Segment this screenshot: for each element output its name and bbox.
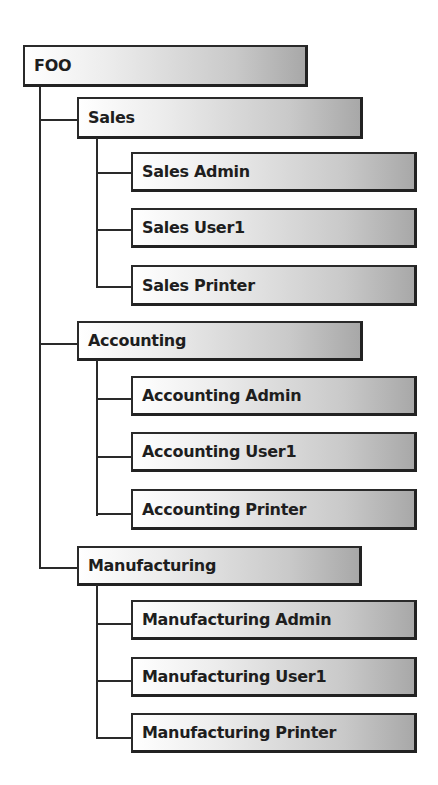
leaf-node-label: Manufacturing User1 bbox=[142, 667, 326, 686]
group-node-label: Manufacturing bbox=[88, 556, 216, 575]
connector-sales-admin bbox=[96, 172, 132, 174]
group-node-label: Accounting bbox=[88, 331, 186, 350]
connector-manufacturing-admin bbox=[96, 623, 132, 625]
leaf-node-accounting-user1: Accounting User1 bbox=[131, 432, 417, 472]
leaf-node-sales-printer: Sales Printer bbox=[131, 265, 417, 306]
connector-sales-printer bbox=[96, 286, 132, 288]
connector-accounting-user1 bbox=[96, 456, 132, 458]
leaf-node-sales-admin: Sales Admin bbox=[131, 152, 417, 192]
accounting-branch-line bbox=[96, 360, 98, 516]
leaf-node-label: Accounting Admin bbox=[142, 386, 301, 405]
leaf-node-label: Accounting Printer bbox=[142, 500, 306, 519]
group-node-accounting: Accounting bbox=[77, 321, 363, 361]
manufacturing-branch-line bbox=[96, 585, 98, 739]
connector-manufacturing-user1 bbox=[96, 680, 132, 682]
connector-accounting-admin bbox=[96, 398, 132, 400]
leaf-node-manufacturing-admin: Manufacturing Admin bbox=[131, 600, 417, 640]
leaf-node-accounting-admin: Accounting Admin bbox=[131, 376, 417, 416]
leaf-node-manufacturing-user1: Manufacturing User1 bbox=[131, 657, 417, 697]
connector-accounting bbox=[39, 343, 78, 345]
root-trunk-line bbox=[39, 86, 41, 568]
root-node: FOO bbox=[23, 45, 308, 87]
root-node-label: FOO bbox=[34, 56, 71, 75]
connector-accounting-printer bbox=[96, 513, 132, 515]
leaf-node-label: Manufacturing Admin bbox=[142, 610, 331, 629]
leaf-node-label: Sales Printer bbox=[142, 276, 255, 295]
group-node-sales: Sales bbox=[77, 97, 363, 139]
connector-manufacturing bbox=[39, 567, 78, 569]
leaf-node-sales-user1: Sales User1 bbox=[131, 208, 417, 248]
connector-manufacturing-printer bbox=[96, 737, 132, 739]
org-tree-diagram: FOO Sales Sales Admin Sales User1 Sales … bbox=[0, 0, 438, 785]
group-node-label: Sales bbox=[88, 108, 135, 127]
leaf-node-accounting-printer: Accounting Printer bbox=[131, 489, 417, 530]
connector-sales-user1 bbox=[96, 229, 132, 231]
leaf-node-label: Manufacturing Printer bbox=[142, 723, 336, 742]
leaf-node-label: Sales Admin bbox=[142, 162, 250, 181]
leaf-node-manufacturing-printer: Manufacturing Printer bbox=[131, 713, 417, 753]
leaf-node-label: Sales User1 bbox=[142, 218, 245, 237]
sales-branch-line bbox=[96, 138, 98, 288]
group-node-manufacturing: Manufacturing bbox=[77, 546, 362, 586]
connector-sales bbox=[39, 119, 78, 121]
leaf-node-label: Accounting User1 bbox=[142, 442, 296, 461]
